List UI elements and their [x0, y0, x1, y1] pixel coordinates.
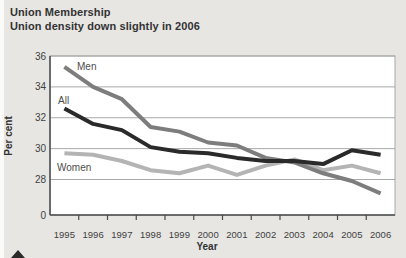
x-tick-label: 2006 [370, 229, 391, 240]
y-tick-label: 32 [35, 112, 47, 123]
series-label-women: Women [57, 162, 91, 173]
y-tick-label: 28 [35, 174, 47, 185]
plot-area [50, 56, 395, 215]
x-tick-label: 1997 [111, 229, 132, 240]
x-tick-label: 2003 [284, 229, 305, 240]
x-axis-title: Year [196, 241, 217, 252]
x-tick-label: 2005 [341, 229, 362, 240]
x-tick-label: 2000 [198, 229, 219, 240]
x-tick-label: 1998 [140, 229, 161, 240]
x-tick-label: 2004 [313, 229, 334, 240]
y-tick-label: 36 [35, 51, 47, 62]
x-tick-label: 1996 [83, 229, 104, 240]
x-tick-label: 2002 [255, 229, 276, 240]
y-tick-label: 0 [40, 210, 46, 221]
report-chart-panel: Union Membership Union density down slig… [0, 0, 406, 258]
y-tick-label: 30 [35, 143, 47, 154]
x-tick-label: 1995 [54, 229, 75, 240]
triangle-icon [11, 250, 25, 258]
y-axis-title: Per cent [3, 116, 14, 156]
union-density-line-chart: 3634323028019951996199719981999200020012… [0, 0, 406, 258]
y-tick-label: 34 [35, 81, 47, 92]
x-tick-label: 1999 [169, 229, 190, 240]
series-label-all: All [58, 95, 69, 106]
x-tick-label: 2001 [226, 229, 247, 240]
series-label-men: Men [77, 61, 96, 72]
